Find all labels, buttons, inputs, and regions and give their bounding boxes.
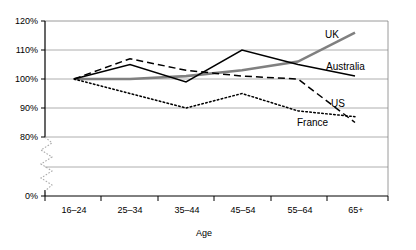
series-line-france: [74, 79, 355, 117]
xtick-label-45-54: 45–54: [215, 205, 271, 215]
ytick-label-0: 0%: [0, 191, 38, 201]
line-chart: 120% 110% 100% 90% 80% 0% 16–24 25–34 35…: [0, 0, 416, 250]
xtick-label-35-44: 35–44: [159, 205, 215, 215]
ytick-label-90: 90%: [0, 103, 38, 113]
x-axis-title: Age: [196, 228, 212, 238]
series-line-uk: [74, 33, 355, 79]
ytick-label-80: 80%: [0, 132, 38, 142]
xtick-label-25-34: 25–34: [102, 205, 158, 215]
ytick-label-120: 120%: [0, 16, 38, 26]
x-tick-marks: [45, 196, 388, 201]
ytick-label-100: 100%: [0, 74, 38, 84]
series-label-australia: Australia: [326, 61, 365, 72]
ytick-label-110: 110%: [0, 45, 38, 55]
series-label-france: France: [297, 117, 328, 128]
axis-break-zigzag: [41, 137, 52, 191]
series-label-us: US: [331, 98, 345, 109]
xtick-label-55-64: 55–64: [272, 205, 328, 215]
xtick-label-16-24: 16–24: [46, 205, 102, 215]
xtick-label-65plus: 65+: [328, 205, 384, 215]
series-label-uk: UK: [325, 29, 339, 40]
